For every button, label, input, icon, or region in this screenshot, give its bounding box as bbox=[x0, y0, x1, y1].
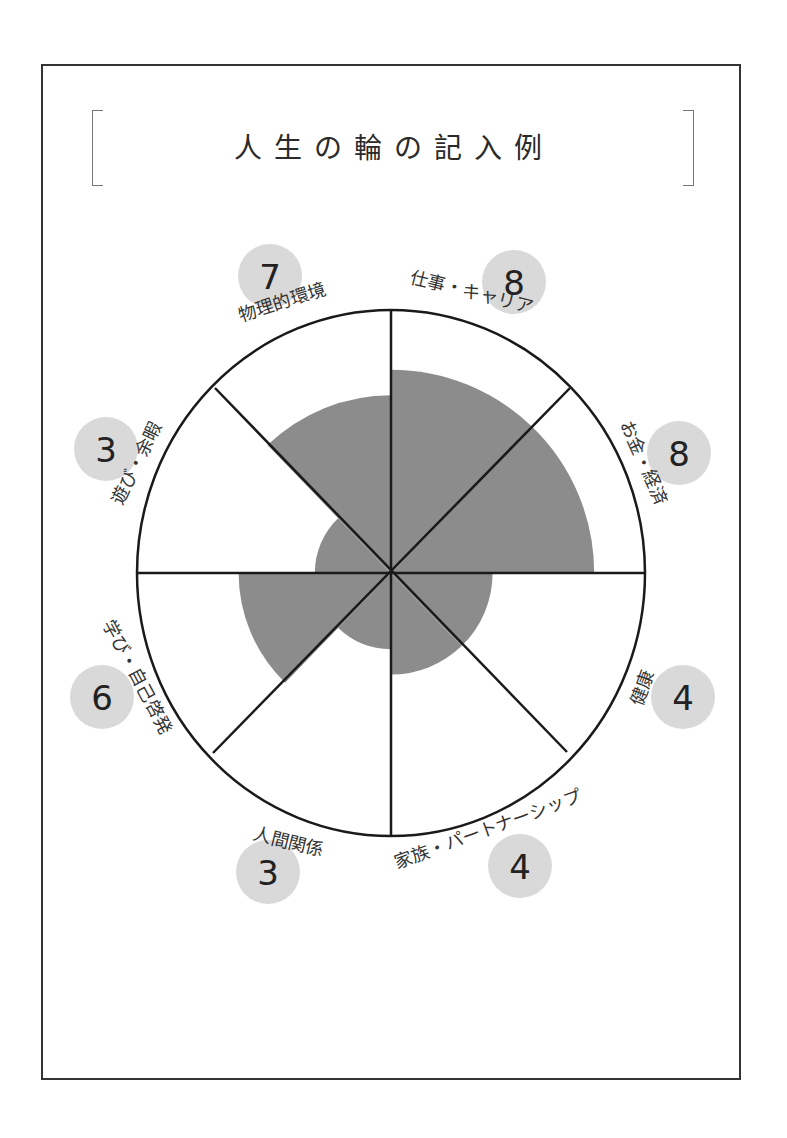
score-relationships: 3 bbox=[257, 853, 279, 893]
badge-learning: 6 bbox=[70, 665, 134, 729]
score-environment: 7 bbox=[259, 257, 281, 297]
label-family: 家族・パートナーシップ bbox=[391, 785, 584, 872]
score-health: 4 bbox=[672, 678, 694, 718]
score-learning: 6 bbox=[91, 678, 113, 718]
score-family: 4 bbox=[509, 847, 531, 887]
sector-dividers bbox=[137, 310, 645, 837]
badge-health: 4 bbox=[651, 665, 715, 729]
score-leisure: 3 bbox=[95, 430, 117, 470]
wheel-of-life-chart: 8 8 4 4 3 6 3 7 仕事・キ bbox=[0, 0, 787, 1138]
score-finance: 8 bbox=[668, 434, 690, 474]
badge-family: 4 bbox=[488, 834, 552, 898]
